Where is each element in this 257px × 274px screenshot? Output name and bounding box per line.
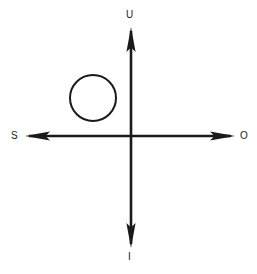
axis-label-left: S xyxy=(11,131,18,141)
axis-label-down: I xyxy=(128,252,131,262)
quadrant-circle xyxy=(70,75,116,121)
diagram-canvas xyxy=(0,0,257,274)
axis-diagram: U O I S xyxy=(0,0,257,274)
axis-label-right: O xyxy=(240,131,248,141)
axis-label-up: U xyxy=(126,10,133,20)
